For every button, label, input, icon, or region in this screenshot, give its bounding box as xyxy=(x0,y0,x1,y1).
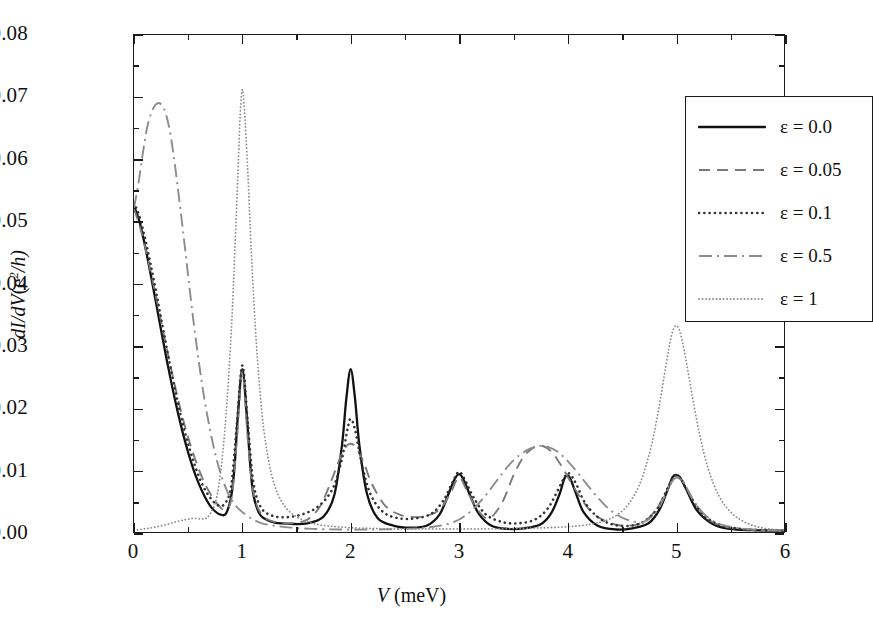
legend-line-sample xyxy=(698,249,766,263)
legend-item: ε = 0.05 xyxy=(686,148,872,191)
x-axis-major-tick-top xyxy=(459,35,461,44)
y-axis-major-tick xyxy=(134,471,143,473)
legend-box: ε = 0.0ε = 0.05ε = 0.1ε = 0.5ε = 1 xyxy=(685,96,873,322)
x-axis-minor-tick-top xyxy=(188,35,190,40)
legend-line-sample xyxy=(698,120,766,134)
x-axis-major-tick-top xyxy=(785,35,787,44)
x-axis-major-tick xyxy=(133,523,135,532)
legend-item-label: ε = 0.1 xyxy=(780,202,832,224)
y-tick-label: 0.01 xyxy=(0,460,28,481)
x-axis-minor-tick xyxy=(622,527,624,532)
y-axis-minor-tick xyxy=(134,253,139,255)
legend-item: ε = 1 xyxy=(686,277,872,320)
y-axis-minor-tick-right xyxy=(779,502,784,504)
legend-line-sample xyxy=(698,163,766,177)
legend-item-label: ε = 0.05 xyxy=(780,159,841,181)
x-axis-major-tick xyxy=(459,523,461,532)
x-axis-major-tick-top xyxy=(568,35,570,44)
x-tick-label: 4 xyxy=(548,541,588,562)
legend-line-sample xyxy=(698,292,766,306)
x-axis-minor-tick xyxy=(296,527,298,532)
legend-item-label: ε = 0.0 xyxy=(780,116,832,138)
y-axis-major-tick-right xyxy=(775,533,784,535)
x-tick-label: 1 xyxy=(222,541,262,562)
y-tick-label: 0.08 xyxy=(0,23,28,44)
y-tick-label: 0.00 xyxy=(0,522,28,543)
x-axis-minor-tick-top xyxy=(405,35,407,40)
legend-item: ε = 0.5 xyxy=(686,234,872,277)
y-axis-minor-tick xyxy=(134,377,139,379)
x-tick-label: 5 xyxy=(656,541,696,562)
y-tick-label: 0.05 xyxy=(0,210,28,231)
x-axis-minor-tick-top xyxy=(296,35,298,40)
y-axis-major-tick-right xyxy=(775,409,784,411)
y-axis-minor-tick xyxy=(134,440,139,442)
legend-item-label: ε = 1 xyxy=(780,288,818,310)
y-axis-major-tick xyxy=(134,284,143,286)
x-axis-minor-tick-top xyxy=(731,35,733,40)
y-axis-major-tick xyxy=(134,346,143,348)
x-axis-major-tick xyxy=(568,523,570,532)
x-tick-label: 3 xyxy=(439,541,479,562)
y-axis-major-tick xyxy=(134,409,143,411)
y-tick-label: 0.03 xyxy=(0,335,28,356)
y-axis-minor-tick-right xyxy=(779,440,784,442)
x-tick-label: 0 xyxy=(113,541,153,562)
x-axis-minor-tick xyxy=(731,527,733,532)
legend-item: ε = 0.0 xyxy=(686,105,872,148)
y-axis-minor-tick xyxy=(134,502,139,504)
plot-area: ε = 0.0ε = 0.05ε = 0.1ε = 0.5ε = 1 xyxy=(133,34,785,533)
y-tick-label: 0.04 xyxy=(0,273,28,294)
x-tick-label: 6 xyxy=(765,541,805,562)
x-axis-title-unit: (meV) xyxy=(394,584,446,606)
x-axis-major-tick-top xyxy=(133,35,135,44)
y-tick-label: 0.06 xyxy=(0,148,28,169)
y-tick-label: 0.07 xyxy=(0,85,28,106)
y-axis-major-tick-right xyxy=(775,34,784,36)
y-axis-minor-tick xyxy=(134,190,139,192)
y-axis-major-tick-right xyxy=(775,471,784,473)
y-axis-major-tick xyxy=(134,221,143,223)
x-axis-major-tick xyxy=(677,523,679,532)
y-axis-major-tick-right xyxy=(775,346,784,348)
y-axis-major-tick xyxy=(134,533,143,535)
x-axis-major-tick xyxy=(242,523,244,532)
y-axis-major-tick xyxy=(134,97,143,99)
y-axis-minor-tick xyxy=(134,128,139,130)
x-tick-label: 2 xyxy=(330,541,370,562)
y-axis-minor-tick-right xyxy=(779,65,784,67)
x-axis-major-tick-top xyxy=(242,35,244,44)
y-axis-major-tick xyxy=(134,34,143,36)
legend-item: ε = 0.1 xyxy=(686,191,872,234)
y-tick-label: 0.02 xyxy=(0,397,28,418)
x-axis-minor-tick xyxy=(405,527,407,532)
x-axis-title: V (meV) xyxy=(0,584,823,607)
x-axis-major-tick xyxy=(351,523,353,532)
y-axis-major-tick xyxy=(134,159,143,161)
x-axis-minor-tick-top xyxy=(514,35,516,40)
y-axis-minor-tick xyxy=(134,315,139,317)
legend-line-sample xyxy=(698,206,766,220)
x-axis-major-tick-top xyxy=(351,35,353,44)
x-axis-minor-tick xyxy=(188,527,190,532)
y-axis-title-unit-close: /h) xyxy=(7,250,29,272)
legend-item-label: ε = 0.5 xyxy=(780,245,832,267)
x-axis-major-tick-top xyxy=(677,35,679,44)
x-axis-minor-tick-top xyxy=(622,35,624,40)
y-axis-minor-tick-right xyxy=(779,377,784,379)
x-axis-major-tick xyxy=(785,523,787,532)
y-axis-minor-tick xyxy=(134,65,139,67)
x-axis-title-var: V xyxy=(377,584,389,606)
x-axis-minor-tick xyxy=(514,527,516,532)
